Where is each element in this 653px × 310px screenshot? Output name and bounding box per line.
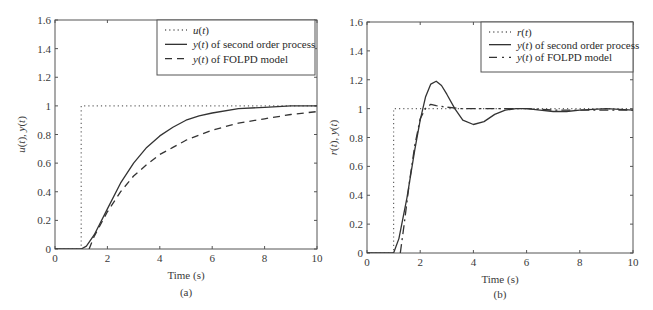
svg-text:u(t): u(t) — [193, 24, 209, 37]
x-tick-label: 10 — [628, 256, 640, 268]
x-tick-label: 8 — [577, 256, 583, 268]
y-tick-label: 1.6 — [349, 16, 363, 28]
x-axis-label: Time (s) — [481, 273, 519, 286]
series-line-0 — [367, 109, 633, 253]
x-tick-label: 2 — [105, 252, 111, 264]
svg-text:y(t) of FOLPD model: y(t) of FOLPD model — [516, 51, 612, 64]
y-tick-label: 0.2 — [349, 218, 363, 230]
y-axis-label: u(t), y(t) — [15, 116, 28, 153]
series-line-1 — [367, 81, 633, 253]
x-tick-label: 10 — [312, 252, 324, 264]
figure: 024681000.20.40.60.811.21.41.6Time (s)u(… — [0, 0, 653, 310]
series-line-0 — [55, 106, 317, 249]
y-tick-label: 0.6 — [349, 160, 363, 172]
y-tick-label: 0.4 — [349, 189, 363, 201]
y-tick-label: 0.8 — [37, 129, 51, 141]
legend: u(t)y(t) of second order processy(t) of … — [157, 20, 315, 75]
y-tick-label: 0.6 — [37, 157, 51, 169]
svg-text:y(t) of FOLPD model: y(t) of FOLPD model — [192, 53, 288, 66]
y-tick-label: 1.2 — [349, 74, 363, 86]
x-axis-label: Time (s) — [167, 269, 205, 282]
y-tick-label: 1 — [46, 100, 52, 112]
y-tick-label: 0.2 — [37, 214, 51, 226]
y-tick-label: 0.4 — [37, 186, 51, 198]
series-line-1 — [55, 106, 317, 249]
svg-text:r(t), y(t): r(t), y(t) — [327, 119, 340, 155]
series-line-2 — [400, 104, 633, 253]
svg-text:y(t) of second order process: y(t) of second order process — [192, 38, 315, 51]
x-tick-label: 0 — [52, 252, 58, 264]
chart-panel-b: 024681000.20.40.60.811.21.41.6Time (s)r(… — [327, 16, 639, 301]
y-tick-label: 0.8 — [349, 132, 363, 144]
svg-text:r(t): r(t) — [517, 26, 532, 39]
svg-text:y(t) of second order process: y(t) of second order process — [516, 39, 639, 52]
chart-panel-a: 024681000.20.40.60.811.21.41.6Time (s)u(… — [15, 14, 323, 299]
y-tick-label: 1.4 — [349, 45, 363, 57]
y-tick-label: 0 — [358, 247, 364, 259]
y-tick-label: 1 — [358, 103, 364, 115]
x-tick-label: 4 — [471, 256, 477, 268]
y-axis-label: r(t), y(t) — [327, 119, 340, 155]
x-tick-label: 0 — [364, 256, 370, 268]
x-tick-label: 8 — [262, 252, 268, 264]
legend: r(t)y(t) of second order processy(t) of … — [481, 22, 639, 72]
x-tick-label: 6 — [524, 256, 530, 268]
panel-caption: (b) — [494, 288, 507, 301]
x-tick-label: 2 — [417, 256, 423, 268]
series-line-2 — [89, 112, 317, 249]
y-tick-label: 1.6 — [37, 14, 51, 26]
svg-text:u(t), y(t): u(t), y(t) — [15, 116, 28, 153]
x-tick-label: 4 — [157, 252, 163, 264]
panel-caption: (a) — [180, 286, 193, 299]
y-tick-label: 1.2 — [37, 71, 51, 83]
y-tick-label: 0 — [46, 243, 52, 255]
x-tick-label: 6 — [209, 252, 215, 264]
y-tick-label: 1.4 — [37, 43, 51, 55]
